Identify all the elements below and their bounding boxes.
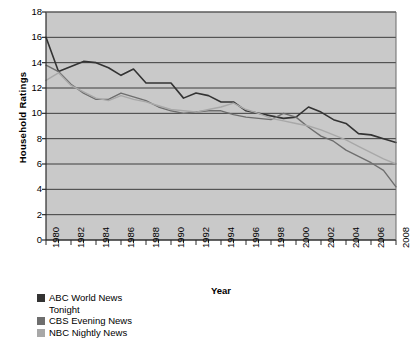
legend-label: ABC World News Tonight bbox=[49, 292, 122, 315]
x-axis-tick-label: 1996 bbox=[250, 227, 261, 248]
x-axis-tick-label: 1986 bbox=[125, 227, 136, 248]
x-axis-tick-label: 1994 bbox=[225, 227, 236, 248]
legend-swatch-icon bbox=[37, 329, 45, 337]
legend-label: CBS Evening News bbox=[49, 315, 132, 327]
x-axis-tick-label: 1990 bbox=[175, 227, 186, 248]
x-axis-tick-label: 2002 bbox=[325, 227, 336, 248]
x-axis-tick-label: 1982 bbox=[75, 227, 86, 248]
x-axis-tick-label: 1992 bbox=[200, 227, 211, 248]
plot-background bbox=[46, 12, 396, 240]
x-axis-tick-label: 1980 bbox=[50, 227, 61, 248]
legend-item: ABC World News Tonight bbox=[37, 292, 132, 315]
legend-label: NBC Nightly News bbox=[49, 327, 127, 339]
legend-item: CBS Evening News bbox=[37, 315, 132, 327]
legend-item: NBC Nightly News bbox=[37, 327, 132, 339]
x-axis-tick-label: 2006 bbox=[375, 227, 386, 248]
x-axis-tick-label: 2000 bbox=[300, 227, 311, 248]
legend-swatch-icon bbox=[37, 294, 45, 302]
x-axis-tick-label: 1988 bbox=[150, 227, 161, 248]
legend-swatch-icon bbox=[37, 317, 45, 325]
chart-legend: ABC World News TonightCBS Evening NewsNB… bbox=[37, 292, 132, 338]
x-axis-tick-label: 1984 bbox=[100, 227, 111, 248]
x-axis-tick-label: 2008 bbox=[400, 227, 411, 248]
x-axis-tick-label: 1998 bbox=[275, 227, 286, 248]
x-axis-tick-label: 2004 bbox=[350, 227, 361, 248]
